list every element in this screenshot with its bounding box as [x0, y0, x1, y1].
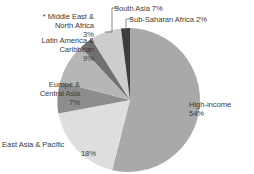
slice-label-europe-central-asia-line2: Central Asia	[0, 89, 80, 98]
slice-label-europe-central-asia: Europe & Central Asia 7%	[0, 80, 80, 108]
chart-plot-area: South Asia 7% Sub-Saharan Africa 2% * Mi…	[0, 0, 254, 174]
slice-label-east-asia-pacific-value: 18%	[2, 149, 96, 158]
slice-label-east-asia-pacific: East Asia & Pacific 18%	[2, 140, 96, 158]
slice-label-latin-america-caribbean-line2: Caribbean	[0, 45, 94, 54]
slice-label-middle-east-north-africa-line1: * Middle East &	[43, 12, 94, 21]
slice-label-latin-america-caribbean-value: 9%	[0, 54, 94, 63]
slice-label-europe-central-asia-value: 7%	[0, 98, 80, 107]
slice-label-high-income-value: 54%	[189, 109, 253, 118]
slice-label-europe-central-asia-line1: Europe &	[49, 80, 80, 89]
slice-label-latin-america-caribbean-line1: Latin America &	[42, 36, 94, 45]
slice-label-sub-saharan-africa-text: Sub-Saharan Africa 2%	[129, 15, 207, 24]
slice-label-south-asia: South Asia 7%	[114, 4, 163, 13]
pie-chart-figure: South Asia 7% Sub-Saharan Africa 2% * Mi…	[0, 0, 254, 174]
slice-label-middle-east-north-africa-line2: North Africa	[2, 21, 94, 30]
slice-label-high-income-line1: High-income	[189, 100, 231, 109]
slice-label-high-income: High-income 54%	[189, 100, 253, 118]
slice-label-south-asia-text: South Asia 7%	[114, 4, 163, 13]
slice-label-latin-america-caribbean: Latin America & Caribbean 9%	[0, 36, 94, 64]
slice-label-sub-saharan-africa: Sub-Saharan Africa 2%	[129, 15, 207, 24]
slice-label-east-asia-pacific-line1: East Asia & Pacific	[2, 140, 64, 149]
